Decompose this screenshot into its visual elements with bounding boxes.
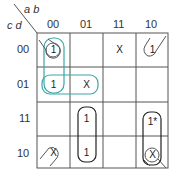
col-header-00: 00 <box>47 19 59 30</box>
cell-r01-c00: 1 <box>37 80 70 90</box>
karnaugh-map: a b c d 00 01 11 10 00 01 11 10 1 X 1 1 … <box>0 0 177 183</box>
cell-r00-c11: X <box>103 45 136 55</box>
cell-r10-c00: X <box>37 148 70 158</box>
row-variable-label: c d <box>7 20 22 31</box>
cell-r10-c10: X <box>136 150 169 160</box>
cell-r00-c10: 1 <box>136 45 169 55</box>
col-variable-label: a b <box>24 4 39 15</box>
row-header-01: 01 <box>17 79 29 90</box>
cell-r00-c00: 1 <box>37 45 70 55</box>
cell-r10-c01: 1 <box>70 148 103 158</box>
row-header-11: 11 <box>19 113 30 124</box>
col-header-01: 01 <box>80 19 92 30</box>
cell-r01-c01: X <box>70 80 103 90</box>
col-header-10: 10 <box>145 19 157 30</box>
row-header-10: 10 <box>17 148 29 159</box>
row-header-00: 00 <box>17 44 29 55</box>
cell-r11-c01: 1 <box>70 114 103 124</box>
col-header-11: 11 <box>113 19 124 30</box>
cell-r11-c10: 1* <box>136 117 169 127</box>
